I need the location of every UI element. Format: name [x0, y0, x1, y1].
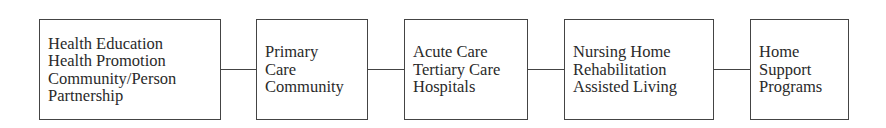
box-line: Partnership [48, 87, 220, 105]
connector-line [221, 69, 256, 70]
box-line: Nursing Home [573, 43, 713, 61]
box-home-support: Home Support Programs [750, 19, 849, 120]
connector-line [714, 69, 750, 70]
box-line: Care [265, 61, 367, 79]
box-line: Home [759, 43, 848, 61]
box-line: Programs [759, 78, 848, 96]
box-line: Hospitals [413, 78, 527, 96]
connector-line [528, 69, 564, 70]
box-health-education: Health Education Health Promotion Commun… [39, 19, 221, 120]
box-line: Community [265, 78, 367, 96]
box-line: Rehabilitation [573, 61, 713, 79]
box-nursing-home: Nursing Home Rehabilitation Assisted Liv… [564, 19, 714, 120]
connector-line [368, 69, 404, 70]
box-line: Community/Person [48, 70, 220, 88]
box-line: Primary [265, 43, 367, 61]
box-line: Tertiary Care [413, 61, 527, 79]
box-line: Assisted Living [573, 78, 713, 96]
box-primary-care: Primary Care Community [256, 19, 368, 120]
box-line: Health Promotion [48, 52, 220, 70]
box-line: Acute Care [413, 43, 527, 61]
box-line: Health Education [48, 35, 220, 53]
box-line: Support [759, 61, 848, 79]
box-acute-care: Acute Care Tertiary Care Hospitals [404, 19, 528, 120]
